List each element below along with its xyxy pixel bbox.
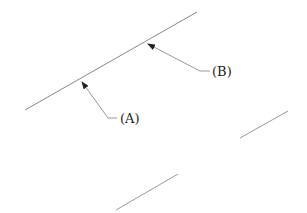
leader-b xyxy=(148,44,210,71)
callout-a: (A) xyxy=(82,82,140,126)
bottom-line xyxy=(116,174,178,210)
diagram-canvas: (A) (B) xyxy=(0,0,307,213)
right-line xyxy=(240,111,288,138)
leader-a xyxy=(82,82,117,118)
label-a: (A) xyxy=(120,111,140,126)
callout-b: (B) xyxy=(148,44,232,79)
main-line xyxy=(25,12,197,110)
label-b: (B) xyxy=(212,64,232,79)
